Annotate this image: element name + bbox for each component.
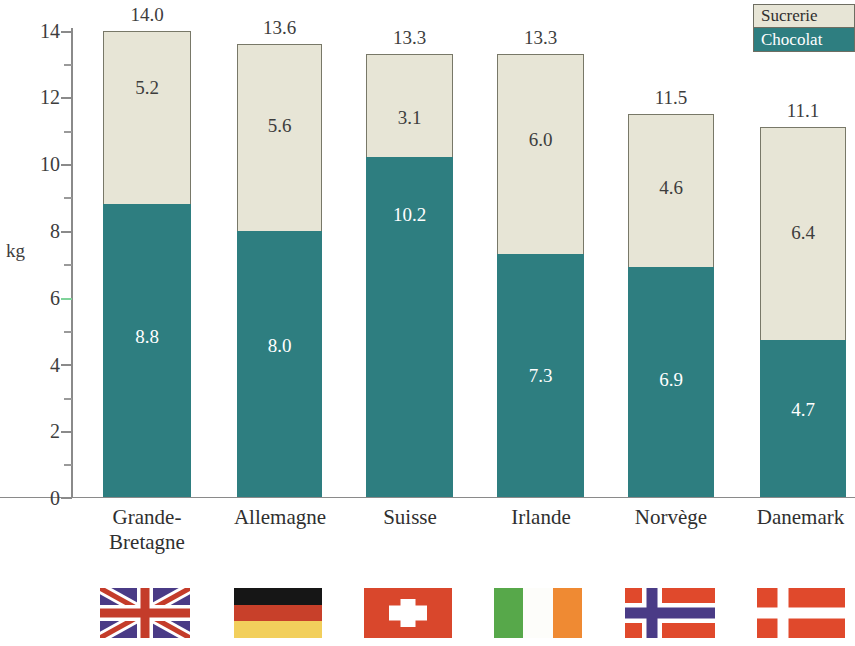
bar-segment-chocolat: 8.0: [237, 231, 322, 497]
category-label-allemagne: Allemagne: [222, 505, 338, 530]
y-tick-14: [61, 31, 72, 33]
bar-total-label: 13.3: [366, 28, 453, 47]
bar-segment-sucrerie: 5.6: [237, 44, 322, 231]
segment-value-label: 8.0: [237, 336, 322, 355]
flag-united-kingdom-icon: [100, 588, 190, 638]
y-tick-label-8: 8: [26, 221, 60, 241]
category-label-norvege: Norvège: [618, 505, 724, 530]
y-tick-label-12: 12: [26, 87, 60, 107]
bar-segment-sucrerie: 3.1: [366, 54, 453, 157]
bar-total-label: 13.3: [497, 28, 584, 47]
bar-irlande: 13.3 6.0 7.3: [497, 54, 584, 497]
bar-total-label: 11.5: [628, 88, 714, 107]
bar-segment-chocolat: 4.7: [760, 340, 846, 497]
segment-value-label: 5.2: [104, 78, 190, 97]
legend-label-chocolat: Chocolat: [761, 30, 822, 50]
y-tick-12: [61, 97, 72, 99]
segment-value-label: 5.6: [238, 116, 321, 135]
bar-segment-sucrerie: 4.6: [628, 114, 714, 267]
category-label-line1: Suisse: [358, 505, 462, 530]
bar-segment-chocolat: 8.8: [103, 204, 191, 497]
bar-total-label: 13.6: [237, 18, 322, 37]
y-tick-4: [61, 364, 72, 366]
segment-value-label: 6.9: [628, 370, 714, 389]
category-label-grande-bretagne: Grande- Bretagne: [95, 505, 199, 555]
y-axis-line: [71, 28, 73, 498]
y-tick-minor-9: [64, 197, 72, 199]
flag-germany-icon: [234, 588, 322, 638]
bar-segment-chocolat: 10.2: [366, 157, 453, 497]
category-label-suisse: Suisse: [358, 505, 462, 530]
bar-segment-chocolat: 7.3: [497, 254, 584, 497]
category-label-danemark: Danemark: [746, 505, 855, 530]
category-label-line1: Grande-: [95, 505, 199, 530]
y-tick-minor-5: [64, 331, 72, 333]
y-tick-label-0: 0: [26, 488, 60, 508]
y-tick-label-14: 14: [26, 21, 60, 41]
bar-total-label: 11.1: [760, 101, 846, 120]
y-tick-6: [61, 298, 72, 300]
bar-allemagne: 13.6 5.6 8.0: [237, 44, 322, 497]
legend-item-sucrerie: Sucrerie: [754, 5, 854, 28]
y-tick-label-10: 10: [26, 154, 60, 174]
category-label-irlande: Irlande: [489, 505, 593, 530]
flag-norway-icon: [625, 588, 715, 638]
y-tick-minor-7: [64, 264, 72, 266]
y-tick-0: [61, 497, 72, 499]
bar-segment-sucrerie: 6.0: [497, 54, 584, 254]
y-tick-10: [61, 164, 72, 166]
segment-value-label: 7.3: [497, 366, 584, 385]
bar-norvege: 11.5 4.6 6.9: [628, 114, 714, 497]
y-axis-unit-label: kg: [6, 240, 25, 262]
segment-value-label: 10.2: [366, 205, 453, 224]
flag-denmark-icon: [757, 588, 845, 638]
y-tick-minor-11: [64, 131, 72, 133]
bar-segment-sucrerie: 5.2: [103, 31, 191, 204]
category-label-line2: Bretagne: [95, 530, 199, 555]
y-tick-minor-3: [64, 398, 72, 400]
category-label-line1: Norvège: [618, 505, 724, 530]
y-tick-label-2: 2: [26, 421, 60, 441]
segment-value-label: 4.6: [629, 178, 713, 197]
category-label-line1: Irlande: [489, 505, 593, 530]
legend-label-sucrerie: Sucrerie: [761, 6, 818, 26]
y-tick-minor-13: [64, 64, 72, 66]
bar-segment-sucrerie: 6.4: [760, 127, 846, 340]
y-axis-tick-labels: 14 12 10 8 6 4 2 0: [8, 0, 60, 646]
legend: Sucrerie Chocolat: [753, 4, 855, 52]
segment-value-label: 6.4: [761, 223, 845, 242]
segment-value-label: 6.0: [498, 130, 583, 149]
bar-suisse: 13.3 3.1 10.2: [366, 54, 453, 497]
y-tick-label-4: 4: [26, 355, 60, 375]
y-tick-2: [61, 431, 72, 433]
bar-grande-bretagne: 14.0 5.2 8.8: [103, 31, 191, 497]
y-tick-minor-1: [64, 464, 72, 466]
flag-switzerland-icon: [364, 588, 452, 638]
bar-total-label: 14.0: [103, 5, 191, 24]
bar-danemark: 11.1 6.4 4.7: [760, 127, 846, 497]
category-label-line1: Danemark: [746, 505, 855, 530]
y-tick-8: [61, 231, 72, 233]
stacked-bar-chart: 14 12 10 8 6 4 2 0 kg 14.0 5.2 8.8 13.6 …: [0, 0, 855, 646]
y-tick-label-6: 6: [26, 288, 60, 308]
flag-ireland-icon: [494, 588, 582, 638]
segment-value-label: 4.7: [760, 400, 846, 419]
legend-item-chocolat: Chocolat: [754, 28, 854, 51]
category-label-line1: Allemagne: [222, 505, 338, 530]
bar-segment-chocolat: 6.9: [628, 267, 714, 497]
segment-value-label: 8.8: [103, 327, 191, 346]
segment-value-label: 3.1: [367, 108, 452, 127]
